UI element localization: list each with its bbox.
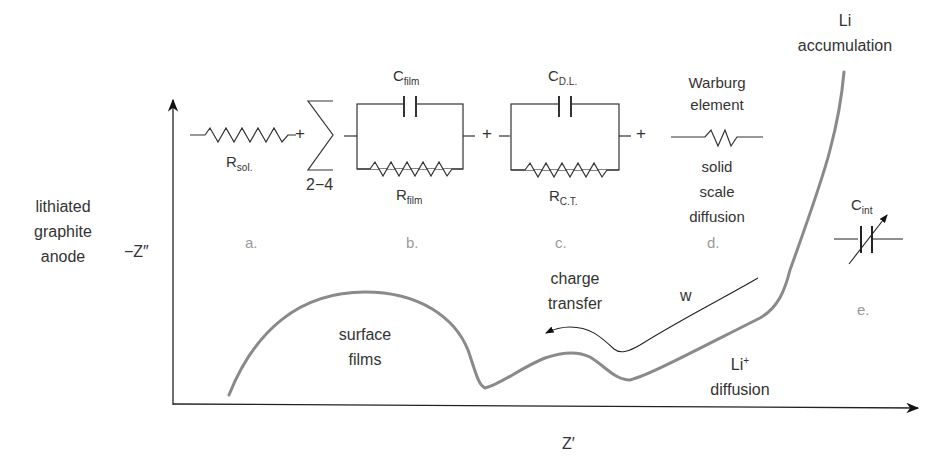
diagram-canvas <box>0 0 945 469</box>
li-ion-main: Li <box>731 356 743 373</box>
r-ct-label: RC.T. <box>549 186 578 211</box>
warburg-desc-line: solid <box>672 154 762 179</box>
warburg-title-line: element <box>672 94 762 116</box>
plus-sign-3: + <box>636 124 646 143</box>
surface-films-line: surface <box>320 322 410 347</box>
c-film-main: C <box>393 67 404 84</box>
c-dl-main: C <box>548 67 559 84</box>
w-label: w <box>680 286 692 305</box>
li-diffusion-word: diffusion <box>695 377 785 402</box>
r-sol-resistor <box>190 128 296 142</box>
c-dl-sub: D.L. <box>559 76 577 87</box>
element-letter-e: e. <box>857 301 870 318</box>
x-axis <box>173 404 918 408</box>
charge-transfer-line: transfer <box>535 291 615 316</box>
r-film-main: R <box>396 186 407 203</box>
y-axis-label: −Z″ <box>124 242 149 261</box>
li-accumulation-line: Li <box>790 8 900 33</box>
element-letter-c: c. <box>555 234 567 251</box>
r-sol-label: Rsol. <box>226 152 252 177</box>
c-film-label: Cfilm <box>393 66 419 91</box>
warburg-title: Warburg element <box>672 72 762 116</box>
element-letter-d: d. <box>707 234 720 251</box>
c-int-sub: int <box>862 205 873 216</box>
li-ion-sup: + <box>743 355 749 366</box>
electrode-label-line: anode <box>18 244 108 269</box>
plus-sign-2: + <box>482 124 492 143</box>
c-film-sub: film <box>404 76 420 87</box>
sum-symbol <box>308 101 333 170</box>
electrode-label-line: graphite <box>18 219 108 244</box>
x-axis-label: Z′ <box>562 434 575 453</box>
r-film-label: Rfilm <box>396 185 422 210</box>
warburg-title-line: Warburg <box>672 72 762 94</box>
warburg-desc-line: diffusion <box>672 204 762 229</box>
r-sol-main: R <box>226 153 237 170</box>
charge-transfer-line: charge <box>535 266 615 291</box>
electrode-label-line: lithiated <box>18 194 108 219</box>
warburg-description: solid scale diffusion <box>672 154 762 229</box>
surface-films-line: films <box>320 347 410 372</box>
r-ct-main: R <box>549 187 560 204</box>
element-letter-b: b. <box>406 234 419 251</box>
r-sol-sub: sol. <box>237 162 253 173</box>
li-accumulation-line: accumulation <box>790 33 900 58</box>
c-int-capacitor <box>834 215 903 264</box>
electrode-label: lithiated graphite anode <box>18 194 108 269</box>
c-dl-label: CD.L. <box>548 66 577 91</box>
plus-sign-1: + <box>295 124 305 143</box>
element-letter-a: a. <box>245 234 258 251</box>
warburg-element <box>671 130 763 146</box>
li-diffusion-label: Li+ diffusion <box>695 348 785 402</box>
surface-films-label: surface films <box>320 322 410 372</box>
r-ct-sub: C.T. <box>560 196 578 207</box>
r-film-sub: film <box>407 195 423 206</box>
li-accumulation-label: Li accumulation <box>790 8 900 58</box>
warburg-desc-line: scale <box>672 179 762 204</box>
c-int-main: C <box>851 196 862 213</box>
dl-rc-circuit <box>511 96 631 177</box>
charge-transfer-label: charge transfer <box>535 266 615 316</box>
c-int-label: Cint <box>851 195 872 220</box>
sum-range-label: 2−4 <box>306 175 333 194</box>
